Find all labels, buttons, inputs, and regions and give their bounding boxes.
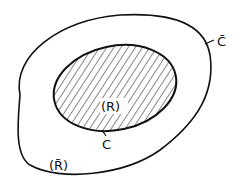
- region-diagram: (R) C C̄ (R̄): [0, 0, 241, 188]
- outer-boundary-label: C̄: [217, 34, 226, 49]
- inner-region-label: (R): [101, 99, 120, 114]
- outer-region-label: (R̄): [49, 158, 68, 173]
- inner-region-hatched: [46, 34, 185, 142]
- inner-boundary-label: C: [102, 137, 111, 152]
